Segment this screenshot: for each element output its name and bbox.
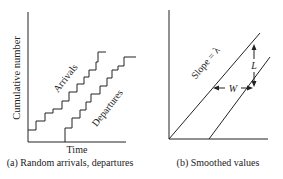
L-label: L bbox=[250, 60, 257, 71]
panel-a-axes bbox=[28, 12, 126, 142]
panel-b-axes bbox=[169, 10, 268, 139]
panel-a-caption: (a) Random arrivals, departures bbox=[7, 157, 134, 169]
smoothed-departures-line bbox=[209, 57, 270, 139]
departures-label: Departures bbox=[89, 87, 125, 128]
panel-b-caption: (b) Smoothed values bbox=[177, 157, 260, 169]
slope-label: Slope = λ bbox=[189, 44, 222, 81]
queue-diagram: Cumulative number Arrivals Departures Ti… bbox=[0, 0, 283, 179]
W-label: W bbox=[229, 83, 239, 94]
panel-a-ylabel: Cumulative number bbox=[11, 36, 22, 120]
panel-a-xlabel: Time bbox=[67, 144, 88, 155]
arrivals-label: Arrivals bbox=[51, 61, 80, 94]
